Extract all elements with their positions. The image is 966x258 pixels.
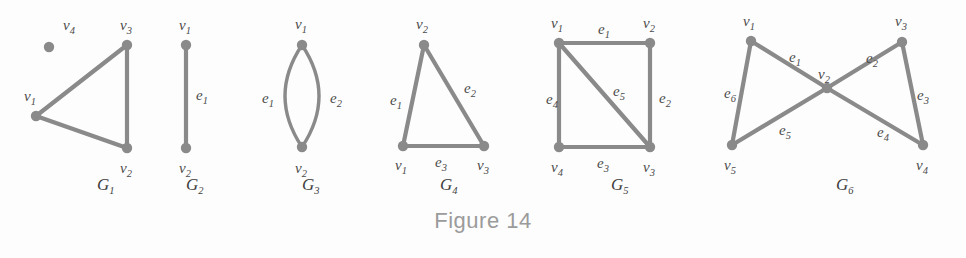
graph-label-g4: G4 xyxy=(440,175,458,196)
edge-label-g6-e5: e5 xyxy=(779,122,791,141)
vertex-g3-v1 xyxy=(297,40,307,50)
vertex-g1-v4 xyxy=(44,42,54,52)
vertex-g6-v5 xyxy=(727,140,737,150)
vertex-label-g1-v2: v2 xyxy=(120,160,133,179)
graph-label-g3: G3 xyxy=(302,175,320,196)
edge-label-g6-e4: e4 xyxy=(877,124,890,143)
graph-g4: e1e2e3v1v2v3G4 xyxy=(390,16,489,196)
edge-g4-v1-v2 xyxy=(403,45,424,146)
vertex-g5-v2 xyxy=(645,38,655,48)
vertex-label-g1-v3: v3 xyxy=(120,17,132,36)
vertex-g1-v3 xyxy=(122,40,132,50)
edge-label-g4-e3: e3 xyxy=(435,154,447,173)
edge-g5-v1-v3 xyxy=(559,43,650,147)
vertex-g6-v3 xyxy=(897,37,907,47)
figure-caption: Figure 14 xyxy=(0,208,966,234)
edge-label-g5-e2: e2 xyxy=(659,90,672,109)
vertex-g6-v4 xyxy=(918,140,928,150)
vertex-label-g6-v3: v3 xyxy=(895,13,907,32)
vertex-g5-v3 xyxy=(645,142,655,152)
edge-label-g3-e2: e2 xyxy=(330,90,343,109)
vertex-g4-v3 xyxy=(479,141,489,151)
vertex-g2-v1 xyxy=(181,40,191,50)
edge-g6-v2-v3 xyxy=(827,42,902,88)
vertex-label-g4-v1: v1 xyxy=(395,157,407,176)
edge-g6-v2-v4 xyxy=(827,88,923,145)
vertex-label-g2-v1: v1 xyxy=(179,17,191,36)
edge-label-g6-e3: e3 xyxy=(917,87,929,106)
edge-g3-v1-v2 xyxy=(285,45,302,147)
graph-g1: v1v2v3v4G1 xyxy=(24,17,133,196)
vertex-g5-v1 xyxy=(554,38,564,48)
vertex-g2-v2 xyxy=(181,143,191,153)
graph-g2: e1v1v2G2 xyxy=(179,17,208,196)
vertex-g6-v1 xyxy=(746,36,756,46)
graph-label-g6: G6 xyxy=(836,175,854,196)
vertex-label-g5-v3: v3 xyxy=(643,159,655,178)
vertex-label-g3-v1: v1 xyxy=(295,16,307,35)
edge-label-g5-e4: e4 xyxy=(546,91,559,110)
graph-label-g2: G2 xyxy=(186,175,204,196)
graph-label-g5: G5 xyxy=(611,175,629,196)
vertex-label-g4-v2: v2 xyxy=(416,16,429,35)
vertex-g3-v2 xyxy=(297,142,307,152)
edge-label-g4-e2: e2 xyxy=(464,80,477,99)
figure-container: v1v2v3v4G1e1v1v2G2e1e2v1v2G3e1e2e3v1v2v3… xyxy=(0,0,966,258)
vertex-label-g5-v4: v4 xyxy=(551,159,564,178)
graph-g3: e1e2v1v2G3 xyxy=(262,16,343,196)
edge-label-g2-e1: e1 xyxy=(196,87,208,106)
vertex-label-g1-v4: v4 xyxy=(63,17,76,36)
graph-g5: e1e2e3e4e5v1v2v3v4G5 xyxy=(546,15,672,196)
vertex-g1-v1 xyxy=(31,111,41,121)
edge-label-g5-e1: e1 xyxy=(598,21,610,40)
vertex-label-g4-v3: v3 xyxy=(477,157,489,176)
graph-g6: e1e2e3e4e5e6v1v2v3v4v5G6 xyxy=(724,13,929,196)
vertex-g5-v4 xyxy=(554,142,564,152)
edge-g1-v1-v2 xyxy=(36,116,127,148)
graph-label-g1: G1 xyxy=(97,175,115,196)
vertex-label-g5-v1: v1 xyxy=(551,15,563,34)
edge-g1-v1-v3 xyxy=(36,45,127,116)
vertex-label-g6-v5: v5 xyxy=(724,157,736,176)
vertex-g4-v2 xyxy=(419,40,429,50)
edge-g3-v1-v2 xyxy=(302,45,319,147)
vertex-g1-v2 xyxy=(122,143,132,153)
vertex-label-g6-v4: v4 xyxy=(916,157,929,176)
edge-label-g5-e5: e5 xyxy=(613,83,625,102)
vertex-label-g5-v2: v2 xyxy=(643,15,656,34)
vertex-label-g1-v1: v1 xyxy=(24,88,36,107)
edge-label-g6-e6: e6 xyxy=(724,85,737,104)
vertex-label-g6-v1: v1 xyxy=(743,13,755,32)
edge-label-g6-e2: e2 xyxy=(866,50,879,69)
edge-label-g4-e1: e1 xyxy=(390,92,402,111)
edge-label-g3-e1: e1 xyxy=(262,90,274,109)
edge-label-g5-e3: e3 xyxy=(597,155,609,174)
vertex-g4-v1 xyxy=(398,141,408,151)
